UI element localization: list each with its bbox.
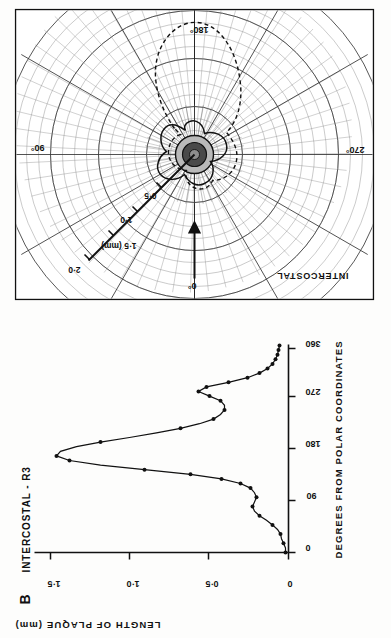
panel-b-plot-area: 0 0·5 1·0 1·5 0 90 180 270 360 — [30, 338, 322, 576]
panel-a-tissue-label: INTERCOSTAL — [276, 270, 348, 280]
rotated-figure-plate: B INTERCOSTAL - R3 LENGTH OF PLAQUE (mm) — [0, 0, 391, 638]
panel-a-rtick-20: 2·0 — [68, 264, 80, 274]
panel-a: A — [0, 0, 391, 308]
panel-b-ytick-05: 0·5 — [205, 578, 218, 588]
panel-a-polar-svg — [14, 8, 374, 300]
panel-a-angle-90: 90° — [30, 142, 44, 152]
panel-b-data-markers — [54, 343, 287, 554]
panel-b-letter: B — [16, 594, 32, 604]
panel-b-data-curve — [56, 345, 285, 552]
panel-b-ytick-10: 1·0 — [126, 578, 139, 588]
panel-a-rtick-05: 0·5 — [144, 190, 156, 200]
figure-plate: B INTERCOSTAL - R3 LENGTH OF PLAQUE (mm) — [0, 0, 391, 638]
panel-b-svg — [30, 338, 322, 576]
panel-b-xtick-0: 0 — [305, 542, 310, 552]
panel-a-plot-area: 2·0 1·5 (mm) 1·0 0·5 0° 90° 180° 270° IN… — [14, 8, 374, 300]
panel-a-angle-180: 180° — [189, 24, 208, 34]
panel-b-xlabel: DEGREES FROM POLAR COORDINATES — [332, 340, 343, 558]
panel-a-angle-270: 270° — [345, 144, 364, 154]
panel-b-xtick-360: 360 — [305, 338, 320, 348]
panel-b-xtick-90: 90 — [306, 490, 316, 500]
panel-a-rtick-10: 1·0 — [120, 214, 132, 224]
panel-b-xtick-270: 270 — [305, 386, 320, 396]
panel-b-title: INTERCOSTAL - R3 — [20, 466, 31, 572]
panel-b-ytick-15: 1·5 — [47, 578, 60, 588]
panel-b: B INTERCOSTAL - R3 LENGTH OF PLAQUE (mm) — [0, 308, 391, 638]
panel-a-rtick-15: 1·5 (mm) — [101, 240, 136, 250]
panel-b-ylabel: LENGTH OF PLAQUE (mm) — [14, 619, 160, 630]
panel-b-ytick-0: 0 — [287, 578, 292, 588]
panel-a-angle-0: 0° — [187, 280, 196, 290]
panel-b-xtick-180: 180 — [305, 438, 320, 448]
